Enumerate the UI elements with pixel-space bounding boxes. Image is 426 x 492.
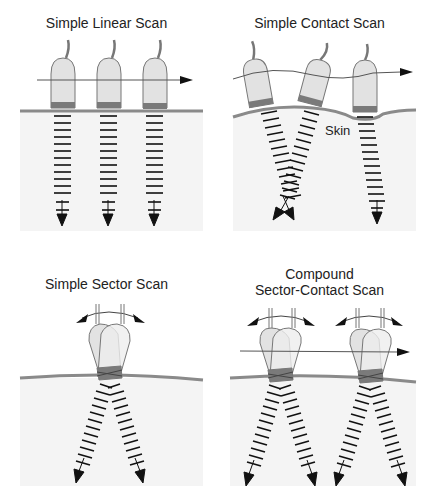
rocking-arrow-icon xyxy=(247,316,315,326)
rocking-arrow-icon xyxy=(76,312,145,323)
tissue-region xyxy=(230,376,416,486)
compound-scan-illustration xyxy=(213,246,426,492)
transducer-icon xyxy=(97,40,121,108)
transducer-icon xyxy=(51,40,75,108)
transducer-icon xyxy=(350,308,391,383)
transducer-icon xyxy=(353,44,377,112)
sector-scan-illustration xyxy=(0,246,213,492)
contact-scan-illustration xyxy=(213,0,426,246)
panel-compound-sector-contact-scan: Compound Sector-Contact Scan xyxy=(213,246,426,492)
skin-label: Skin xyxy=(325,123,350,138)
transducer-icon xyxy=(260,308,301,382)
panel-simple-contact-scan: Simple Contact Scan xyxy=(213,0,426,246)
transducer-icon xyxy=(238,40,273,108)
rocking-arrow-icon xyxy=(335,316,403,326)
transducer-icon xyxy=(143,40,167,109)
transducer-icon xyxy=(89,304,130,380)
panel-simple-linear-scan: Simple Linear Scan xyxy=(0,0,213,246)
linear-scan-illustration xyxy=(0,0,213,246)
tissue-region xyxy=(20,111,203,231)
panel-simple-sector-scan: Simple Sector Scan xyxy=(0,246,213,492)
